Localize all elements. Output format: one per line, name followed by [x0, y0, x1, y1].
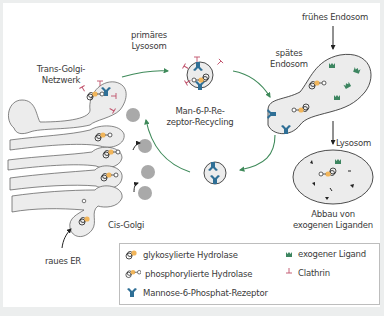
label-cis-golgi: Cis-Golgi — [108, 220, 148, 231]
golgi-membrane — [8, 82, 126, 237]
legend-item-phosphorylated-hydrolase: phosphorylierte Hydrolase — [125, 268, 252, 280]
label-line: Man-6-P-Re- — [160, 106, 240, 117]
label-line: Lysosom — [126, 41, 172, 52]
legend-label: Clathrin — [298, 268, 330, 278]
label-line: Netzwerk — [28, 75, 94, 86]
label-line: Endosom — [264, 59, 314, 70]
legend: glykosylierte Hydrolase phosphorylierte … — [119, 243, 380, 305]
label-line: spätes — [264, 48, 314, 59]
legend-label: glykosylierte Hydrolase — [143, 250, 238, 260]
label-line: exogenen Liganden — [290, 220, 376, 231]
label-line: primäres — [126, 30, 172, 41]
label-late-endosome: spätes Endosom — [264, 48, 314, 70]
label-line: Trans-Golgi- — [28, 64, 94, 75]
legend-item-glycosylated-hydrolase: glykosylierte Hydrolase — [125, 249, 238, 261]
label-trans-golgi: Trans-Golgi- Netzwerk — [28, 64, 94, 86]
legend-item-exogenous-ligand: exogener Ligand — [284, 249, 366, 259]
label-line: Abbau von — [290, 209, 376, 220]
label-primary-lysosome: primäres Lysosom — [126, 30, 172, 52]
exogenous-ligand-icon — [284, 249, 294, 259]
m6p-receptor-icon — [125, 287, 139, 299]
legend-label: Mannose-6-Phosphat-Rezeptor — [143, 288, 268, 298]
glycosylated-hydrolase-icon — [125, 249, 139, 261]
legend-item-clathrin: Clathrin — [284, 268, 330, 278]
clathrin-icon — [284, 268, 294, 278]
label-rough-er: raues ER — [40, 256, 86, 267]
label-lysosome: Lysosom — [336, 138, 376, 149]
legend-label: phosphorylierte Hydrolase — [145, 269, 252, 279]
label-early-endosome: frühes Endosom — [300, 12, 370, 23]
phosphorylated-hydrolase-icon — [125, 268, 141, 280]
legend-label: exogener Ligand — [298, 249, 366, 259]
label-degradation: Abbau von exogenen Liganden — [290, 209, 376, 231]
label-line: zeptor-Recycling — [160, 117, 240, 128]
legend-item-m6p-receptor: Mannose-6-Phosphat-Rezeptor — [125, 287, 268, 299]
label-receptor-recycling: Man-6-P-Re- zeptor-Recycling — [160, 106, 240, 128]
